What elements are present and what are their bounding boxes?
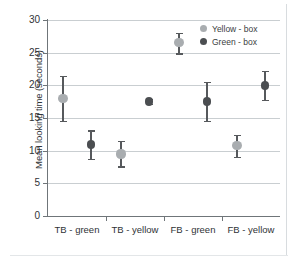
x-axis-tick-mark <box>106 216 107 221</box>
data-point <box>261 81 270 90</box>
error-bar-cap <box>118 166 125 167</box>
x-axis-tick-label: FB - yellow <box>216 224 286 235</box>
figure-frame-bottom <box>10 255 288 256</box>
error-bar-cap <box>234 157 241 158</box>
data-point <box>174 38 183 47</box>
y-axis-tick-label: 15 <box>0 112 40 123</box>
error-bar-cap <box>262 100 269 101</box>
y-axis-tick-label: 20 <box>0 79 40 90</box>
legend-marker-icon <box>200 38 207 45</box>
error-bar-cap <box>176 33 183 34</box>
legend-item: Yellow - box <box>200 22 258 35</box>
data-point <box>87 140 96 149</box>
y-axis-tick-label: 30 <box>0 14 40 25</box>
figure-frame-right <box>286 4 287 256</box>
legend-marker-icon <box>200 25 207 32</box>
plot-area <box>48 20 280 216</box>
error-bar-cap <box>118 141 125 142</box>
data-point <box>203 97 212 106</box>
legend-label: Green - box <box>212 37 257 47</box>
chart-legend: Yellow - boxGreen - box <box>200 22 258 48</box>
data-point <box>232 141 241 150</box>
error-bar-cap <box>204 121 211 122</box>
error-bar-cap <box>262 71 269 72</box>
x-axis-tick-mark <box>222 216 223 221</box>
y-axis-tick-label: 0 <box>0 210 40 221</box>
error-bar-cap <box>88 159 95 160</box>
legend-label: Yellow - box <box>212 24 258 34</box>
y-axis-tick-label: 10 <box>0 145 40 156</box>
error-bar-cap <box>176 53 183 54</box>
error-bar-cap <box>234 135 241 136</box>
error-bar-cap <box>60 76 67 77</box>
chart-figure: Mean looking time (seconds) 051015202530… <box>0 0 303 264</box>
error-bar-cap <box>88 130 95 131</box>
error-bar-cap <box>60 121 67 122</box>
data-point <box>145 97 154 106</box>
data-point <box>58 94 67 103</box>
error-bar-cap <box>204 82 211 83</box>
y-axis-tick-label: 5 <box>0 177 40 188</box>
y-axis-tick-label: 25 <box>0 47 40 58</box>
x-axis-tick-mark <box>164 216 165 221</box>
data-point <box>116 149 125 158</box>
legend-item: Green - box <box>200 35 258 48</box>
